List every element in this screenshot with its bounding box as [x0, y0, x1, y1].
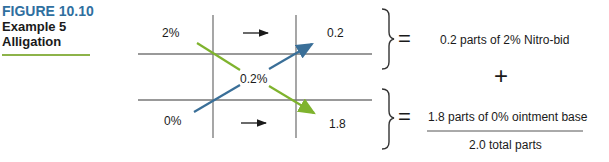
plus-sign: +: [494, 64, 508, 88]
brace-top: [382, 9, 394, 69]
green-arrow-upper-segment: [197, 43, 240, 70]
equals-sign-top: =: [398, 28, 411, 50]
result-stock-parts: 0.2 parts of 2% Nitro-bid: [440, 33, 569, 47]
label-stock-parts: 0.2: [327, 26, 344, 40]
label-stock-strength: 2%: [162, 26, 179, 40]
equals-sign-bottom: =: [398, 106, 411, 128]
result-base-parts: 1.8 parts of 0% ointment base: [428, 110, 587, 124]
result-total-parts: 2.0 total parts: [469, 138, 542, 152]
label-base-strength: 0%: [164, 114, 181, 128]
blue-arrow-lower-segment: [194, 85, 240, 112]
brace-bottom: [382, 89, 394, 149]
label-base-parts: 1.8: [329, 117, 346, 131]
blue-arrow-upper-segment: [269, 44, 312, 69]
label-desired-strength: 0.2%: [240, 72, 267, 86]
